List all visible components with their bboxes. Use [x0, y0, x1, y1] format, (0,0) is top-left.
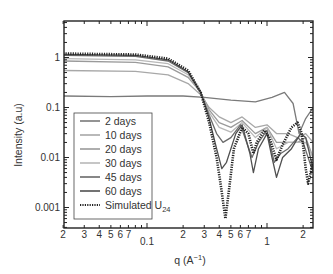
y-tick-label: 1	[54, 52, 60, 63]
x-tick-label: 2	[60, 229, 66, 240]
legend-label: 10 days	[105, 129, 142, 141]
x-tick-label: 6	[238, 229, 244, 240]
y-tick-label: 0.1	[46, 102, 60, 113]
x-tick-label: 5	[108, 229, 114, 240]
y-axis-label: Intensity (a.u)	[12, 103, 24, 167]
x-tick-label: 1	[264, 236, 270, 247]
x-tick-label: 6	[118, 229, 124, 240]
x-tick-label: 0.1	[140, 236, 154, 247]
legend-label: 2 days	[105, 115, 136, 127]
x-tick-label: 2	[300, 229, 306, 240]
x-tick-label: 4	[96, 229, 102, 240]
legend-label: 30 days	[105, 157, 142, 169]
x-tick-label: 2	[180, 229, 186, 240]
x-tick-label: 7	[246, 229, 252, 240]
x-tick-label: 5	[228, 229, 234, 240]
legend-label: 60 days	[105, 185, 142, 197]
x-tick-label: 7	[126, 229, 132, 240]
x-tick-label: 3	[81, 229, 87, 240]
legend: 2 days10 days20 days30 days45 days60 day…	[74, 113, 171, 219]
legend-label: 20 days	[105, 143, 142, 155]
legend-label: 45 days	[105, 171, 142, 183]
x-axis-label: q (A−1)	[174, 253, 205, 266]
x-tick-label: 3	[201, 229, 207, 240]
saxs-chart: 2345670.123456712 10.10.010.001 2 days10…	[0, 0, 333, 274]
y-tick-label: 0.001	[35, 202, 60, 213]
x-tick-label: 4	[216, 229, 222, 240]
y-tick-label: 0.01	[41, 152, 61, 163]
